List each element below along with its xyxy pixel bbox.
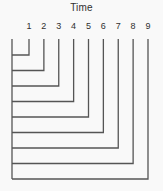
nested-bracket-lines [0,0,163,191]
bracket-line-3 [12,39,59,86]
bracket-line-5 [12,39,89,117]
time-nesting-diagram: Time 123456789 [0,0,163,191]
bracket-line-9 [12,39,148,179]
bracket-line-1 [12,39,29,55]
